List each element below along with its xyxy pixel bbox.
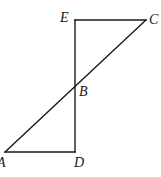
label-e: E bbox=[59, 10, 69, 25]
geometry-diagram: E C B A D bbox=[0, 0, 161, 177]
label-c: C bbox=[149, 12, 159, 27]
label-a: A bbox=[0, 155, 6, 170]
label-d: D bbox=[73, 155, 84, 170]
label-b: B bbox=[79, 84, 88, 99]
